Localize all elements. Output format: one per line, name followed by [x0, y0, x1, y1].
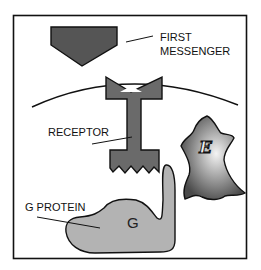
first-messenger-leader [126, 36, 153, 42]
g-protein-label: G PROTEIN [25, 201, 86, 213]
first-messenger-label-2: MESSENGER [160, 45, 230, 57]
first-messenger-label-1: FIRST [160, 31, 192, 43]
g-protein-glyph: G [127, 214, 139, 231]
signal-transduction-diagram: FIRST MESSENGER RECEPTOR E G G PROTEIN [0, 0, 261, 270]
receptor-shape [106, 77, 162, 173]
receptor-leader [92, 137, 132, 144]
effector-shape [181, 116, 245, 200]
effector-glyph: E [198, 137, 213, 157]
first-messenger-shape [51, 27, 117, 66]
receptor-label: RECEPTOR [48, 126, 109, 138]
